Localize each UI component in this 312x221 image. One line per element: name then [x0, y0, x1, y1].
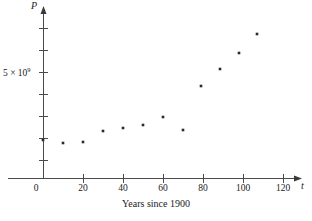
data-point	[162, 116, 165, 119]
chart-caption: Years since 1900	[0, 199, 312, 209]
data-point-series	[42, 33, 259, 145]
data-point	[62, 142, 65, 145]
x-axis-tick-label-40: 40	[113, 184, 133, 194]
data-point	[182, 129, 185, 132]
x-axis-tick-label-80: 80	[193, 184, 213, 194]
y-axis-tick-label-5e9: 5 × 109	[3, 67, 31, 79]
x-axis-tick-label-20: 20	[73, 184, 93, 194]
x-axis-tick-label-60: 60	[153, 184, 173, 194]
data-point	[256, 33, 259, 36]
x-axis-label: t	[301, 181, 304, 191]
data-point	[122, 127, 125, 130]
y-tick-label-exponent: 9	[27, 66, 30, 73]
y-axis-label: P	[31, 1, 37, 11]
x-axis-tick-label-100: 100	[233, 184, 253, 194]
data-point	[219, 68, 222, 71]
x-axis-tick-label-120: 120	[273, 184, 293, 194]
data-point	[102, 130, 105, 133]
data-point	[82, 141, 85, 144]
scatter-plot-figure: P 5 × 109 0 20 40 60 80 100 120 t Years …	[0, 0, 312, 221]
y-axis-arrow-icon	[41, 6, 47, 14]
x-axis-tick-label-0: 0	[26, 184, 46, 194]
data-point	[200, 85, 203, 88]
data-point	[42, 139, 45, 142]
y-tick-label-mantissa: 5 × 10	[3, 68, 27, 78]
data-point	[142, 124, 145, 127]
data-point	[238, 52, 241, 55]
